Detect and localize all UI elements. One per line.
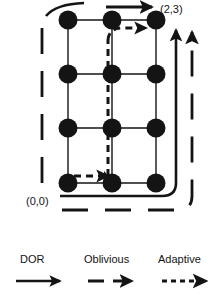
grid-node[interactable]	[147, 119, 166, 138]
route-dor	[60, 30, 176, 196]
grid-node-0-0[interactable]	[59, 174, 78, 193]
grid-node[interactable]	[103, 119, 122, 138]
legend-label-dor: DOR	[20, 254, 44, 265]
grid-node[interactable]	[147, 174, 166, 193]
adaptive-seg-top	[108, 28, 146, 40]
grid-mesh	[68, 20, 156, 183]
dor-wrap-path	[60, 30, 176, 196]
grid-node[interactable]	[59, 65, 78, 84]
legend-label-oblivious: Oblivious	[84, 254, 129, 265]
node-label-top-right: (2,3)	[160, 4, 183, 15]
grid-node[interactable]	[59, 11, 78, 30]
route-adaptive	[74, 28, 146, 176]
grid-node[interactable]	[103, 11, 122, 30]
node-label-origin: (0,0)	[26, 196, 49, 207]
legend-label-adaptive: Adaptive	[158, 254, 201, 265]
grid-node[interactable]	[147, 65, 166, 84]
grid-node[interactable]	[59, 119, 78, 138]
